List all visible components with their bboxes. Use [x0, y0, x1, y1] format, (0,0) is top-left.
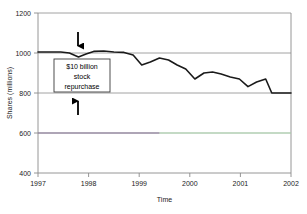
- x-tick-labels: 1997 1998 1999 2000 2001 2002: [30, 180, 299, 187]
- share-count-line-chart: 1200 1000 800 600 400 1997 1998 1999 200…: [0, 0, 307, 214]
- chart-container: 1200 1000 800 600 400 1997 1998 1999 200…: [0, 0, 307, 214]
- y-tick-label-400: 400: [19, 170, 31, 177]
- y-tick-label-800: 800: [19, 90, 31, 97]
- y-tick-label-600: 600: [19, 130, 31, 137]
- x-tick-marks: [38, 173, 291, 177]
- y-tick-label-1000: 1000: [15, 50, 31, 57]
- y-tick-marks: [34, 13, 38, 173]
- x-tick-label-2000: 2000: [182, 180, 198, 187]
- callout-line-1: $10 billion: [66, 63, 98, 70]
- y-axis-title: Shares (millions): [6, 67, 14, 119]
- x-axis-title: Time: [157, 196, 172, 203]
- callout-line-3: repurchase: [64, 83, 99, 91]
- x-tick-label-2002: 2002: [283, 180, 299, 187]
- x-tick-label-1999: 1999: [131, 180, 147, 187]
- x-tick-label-2001: 2001: [233, 180, 249, 187]
- repurchase-callout: $10 billion stock repurchase: [54, 59, 110, 92]
- x-tick-label-1997: 1997: [30, 180, 46, 187]
- x-tick-label-1998: 1998: [81, 180, 97, 187]
- callout-line-2: stock: [74, 73, 91, 80]
- y-tick-label-1200: 1200: [15, 10, 31, 17]
- y-tick-labels: 1200 1000 800 600 400: [15, 10, 31, 177]
